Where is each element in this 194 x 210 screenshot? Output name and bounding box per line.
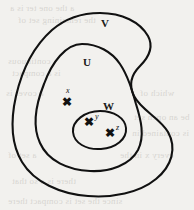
region-label-u: U xyxy=(83,56,91,68)
region-label-w: W xyxy=(103,100,114,112)
point-z-label: z xyxy=(116,124,119,132)
set-curves xyxy=(0,0,194,210)
point-y-label: y xyxy=(95,113,99,121)
set-diagram-figure: a the one ter is a the remaining set of … xyxy=(0,0,194,210)
point-x-label: x xyxy=(66,87,70,95)
region-label-v: V xyxy=(101,17,109,29)
point-z-mark: ✖ xyxy=(105,127,115,139)
point-x-mark: ✖ xyxy=(62,96,72,108)
point-y-mark: ✖ xyxy=(84,116,94,128)
